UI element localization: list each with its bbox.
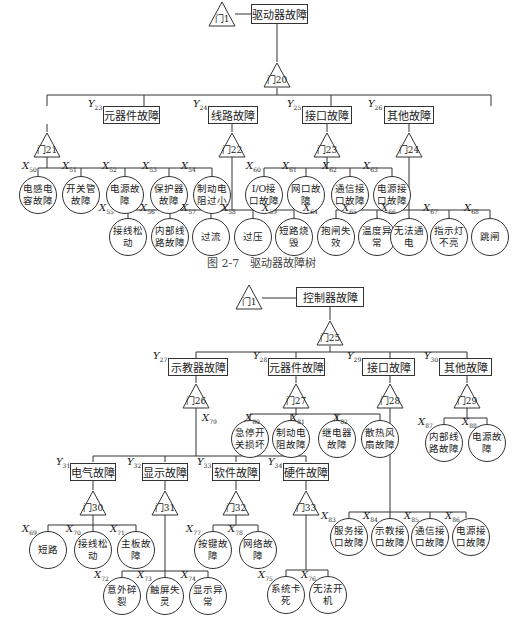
event-component-fault: 元器件故障 [103, 106, 160, 124]
event-id-X81: X81 [290, 412, 305, 425]
event-teach-pendant-fault: 示教器故障 [168, 358, 228, 376]
event-component-fault: 元器件故障 [268, 358, 325, 376]
event-id-X63: X63 [363, 160, 378, 173]
event-software-fault: 软件故障 [212, 463, 260, 481]
gate-24: 门24 [395, 132, 423, 158]
event-other-fault: 其他故障 [384, 106, 434, 124]
gate-28: 门28 [376, 383, 404, 409]
event-id-Y24: Y24 [193, 98, 207, 111]
basic-event-brake-failure: 抱闸失效 [317, 218, 355, 256]
transfer-gate-1: 门1 [208, 1, 236, 27]
event-id-X73: X73 [137, 569, 152, 582]
gate-23: 门23 [313, 132, 341, 158]
event-id-X56: X56 [140, 202, 155, 215]
transfer-gate-1: 门1 [235, 284, 263, 310]
top-event-controller-fault: 控制器故障 [296, 287, 364, 307]
event-id-Y33: Y33 [197, 456, 211, 469]
event-id-X69: X69 [22, 523, 37, 536]
event-id-X60: X60 [246, 160, 261, 173]
event-interface-fault: 接口故障 [302, 106, 352, 124]
basic-event-inductor-capacitor-fault: 电感电容故障 [19, 176, 57, 214]
basic-event-trip: 跳闸 [471, 218, 509, 256]
event-hardware-fault: 硬件故障 [283, 463, 329, 481]
gate-21: 门21 [33, 132, 61, 158]
gate-32: 门32 [222, 490, 250, 516]
gate-27: 门27 [282, 383, 310, 409]
event-id-Y32: Y32 [127, 456, 141, 469]
gate-31: 门31 [151, 490, 179, 516]
event-line-fault: 线路故障 [208, 106, 258, 124]
event-id-X76: X78 [228, 523, 243, 536]
basic-event-key-fault: 系统卡死 [267, 576, 305, 614]
event-id-X86: X86 [445, 510, 460, 523]
event-id-X55: X55 [99, 202, 114, 215]
event-id-Y29: Y29 [347, 350, 361, 363]
basic-event-display-abnormal: 显示异常 [189, 577, 227, 615]
basic-event-comm-interface-fault: 通信接口故障 [411, 518, 449, 556]
event-id-X68: X68 [464, 202, 479, 215]
basic-event-power-fault: 电源故障 [468, 424, 506, 462]
basic-event-touchscreen-failure: 触屏失灵 [146, 577, 184, 615]
figure-caption: 图 2-7 驱动器故障树 [207, 254, 316, 270]
event-id-X59: X59 [262, 202, 277, 215]
event-id-X61: X61 [282, 160, 297, 173]
event-id-Y23: Y23 [88, 98, 102, 111]
event-id-X72: X72 [94, 569, 109, 582]
event-id-X77: X75 [258, 569, 273, 582]
basic-event-accidental-crack: 意外碎裂 [103, 577, 141, 615]
basic-event-short-circuit-burn: 短路烧毁 [275, 218, 313, 256]
basic-event-service-interface-fault: 服务接口故障 [330, 518, 368, 556]
gate-29: 门29 [453, 383, 481, 409]
event-id-X65: X65 [342, 202, 357, 215]
event-id-Y31: Y31 [56, 456, 70, 469]
basic-event-power-interface-fault: 电源接口故障 [452, 518, 490, 556]
basic-event-overvoltage: 过压 [234, 218, 272, 256]
basic-event-mainboard-fault: 主板故障 [117, 531, 155, 569]
basic-event-internal-line-fault: 内部线路故障 [151, 218, 189, 256]
event-id-X57: X57 [181, 202, 196, 215]
gate-26: 门26 [182, 383, 210, 409]
event-id-X66: X66 [381, 202, 396, 215]
basic-event-indicator-off: 指示灯不亮 [430, 218, 468, 256]
event-other-fault: 其他故障 [439, 358, 492, 376]
basic-event-loose-wiring: 接线松动 [109, 218, 147, 256]
basic-event-no-power-on: 无法通电 [390, 218, 428, 256]
event-id-Y26: Y26 [368, 98, 382, 111]
event-id-X51: X51 [62, 160, 77, 173]
event-id-X70: X70 [66, 523, 81, 536]
basic-event-network-fault: 无法开机 [309, 576, 347, 614]
event-id-Y34: Y34 [268, 456, 282, 469]
basic-event-relay-fault: 继电器故障 [318, 420, 356, 458]
event-id-X83: X83 [321, 510, 336, 523]
basic-event-loose-wiring: 接线松动 [74, 531, 112, 569]
event-id-X79: X79 [202, 412, 217, 425]
event-id-X78: X76 [301, 569, 316, 582]
basic-event-short-circuit: 短路 [29, 531, 67, 569]
event-id-X53: X53 [142, 160, 157, 173]
event-id-X58: X58 [221, 202, 236, 215]
gate-20: 门20 [263, 62, 291, 88]
event-id-X85: X85 [404, 510, 419, 523]
gate-33: 门33 [292, 490, 320, 516]
top-event-driver-fault: 驱动器故障 [251, 4, 308, 24]
gate-25: 门25 [316, 320, 344, 346]
event-electrical-fault: 电气故障 [70, 463, 116, 481]
basic-event-overcurrent: 过流 [192, 218, 230, 256]
event-id-X87: X87 [418, 416, 433, 429]
basic-event-switch-tube-fault: 开关管故障 [62, 176, 100, 214]
event-id-X80: X80 [245, 412, 260, 425]
gate-22: 门22 [218, 132, 246, 158]
event-interface-fault: 接口故障 [362, 358, 415, 376]
event-display-fault: 显示故障 [142, 463, 188, 481]
event-id-X62: X62 [322, 160, 337, 173]
gate-30: 门30 [79, 490, 107, 516]
event-id-X82: X82 [333, 412, 348, 425]
event-id-X52: X52 [102, 160, 117, 173]
event-id-X84: X84 [363, 510, 378, 523]
basic-event-estop-switch-damaged: 急停开关损坏 [231, 420, 269, 458]
event-id-X64: X64 [303, 202, 318, 215]
event-id-X71: X71 [110, 523, 125, 536]
basic-event-system-freeze: 按键故障 [194, 531, 232, 569]
basic-event-teach-interface-fault: 示教接口故障 [371, 518, 409, 556]
event-id-X74: X74 [181, 569, 196, 582]
